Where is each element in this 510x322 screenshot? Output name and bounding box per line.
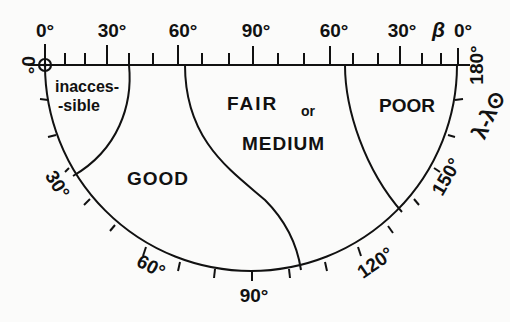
top-label-60-left: 60°: [169, 20, 198, 41]
arc-label-60: 60°: [133, 250, 168, 282]
region-inaccessible-line2: -sible: [58, 97, 100, 114]
region-good-label: GOOD: [127, 168, 189, 189]
top-label-60-right: 60°: [320, 20, 349, 41]
top-axis-major-ticks: [45, 44, 458, 65]
top-label-90: 90°: [242, 20, 271, 41]
arc-label-30: 30°: [41, 167, 74, 202]
visibility-diagram: 0° 30° 60° 90° 60° 30° 0° β 0° 30° 60° 9…: [0, 0, 510, 322]
sun-marker-center: [43, 63, 47, 67]
arc-ticks: [40, 99, 463, 281]
top-label-0-left: 0°: [36, 20, 54, 41]
arc-label-0: 0°: [18, 56, 39, 74]
region-fair-line2: MEDIUM: [242, 133, 325, 154]
top-label-30-right: 30°: [388, 20, 417, 41]
top-label-0-right: 0°: [454, 20, 472, 41]
region-fair-line1: FAIR: [227, 93, 278, 114]
arc-label-180: 180°: [466, 45, 487, 84]
region-inaccessible-line1: inacces-: [55, 78, 119, 95]
arc-label-90: 90°: [240, 285, 269, 306]
region-fair-or: or: [301, 103, 316, 119]
top-label-30-left: 30°: [98, 20, 127, 41]
beta-symbol: β: [431, 18, 445, 41]
fair-poor-boundary: [345, 65, 402, 212]
region-poor-label: POOR: [379, 95, 435, 116]
arc-label-120: 120°: [353, 243, 397, 283]
lambda-axis-symbol: λ-λ⊙: [466, 87, 510, 143]
